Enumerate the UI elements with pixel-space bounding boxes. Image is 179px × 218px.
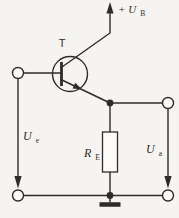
resistor-branch: R E [83,103,118,199]
collector-wire [62,10,110,67]
resistor-label: R E [83,143,100,162]
input-voltage-label: U e [23,126,40,145]
circuit-diagram: + U B T U e U a [0,0,179,218]
transistor-label: T [59,37,66,49]
output-terminal [163,98,174,109]
emitter-arrow-icon [73,83,83,90]
output-ground-terminal [163,190,174,201]
input-voltage-arrowhead-icon [14,176,21,189]
transistor: T [53,37,111,103]
supply-arrow-icon [106,2,113,14]
ground-symbol [100,196,121,205]
input-ground-terminal [13,190,24,201]
supply-voltage-label: + U B [118,0,145,18]
output-voltage-arrowhead-icon [164,176,171,189]
schematic-canvas: + U B T U e U a [0,0,179,218]
input-branch: U e [13,68,62,202]
resistor-body [103,132,118,172]
input-terminal [13,68,24,79]
output-voltage-label: U a [146,139,163,158]
